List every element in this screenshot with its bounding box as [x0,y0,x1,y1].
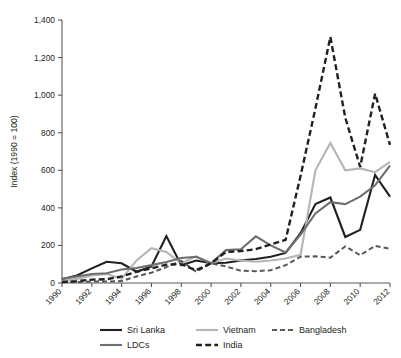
y-tick-label: 0 [50,278,55,288]
y-tick-label: 400 [41,203,55,213]
series-line-vietnam [62,143,390,281]
series-line-india [62,37,390,282]
legend-label-india: India [223,340,243,350]
y-tick-label: 600 [41,165,55,175]
x-tick-label: 1994 [103,286,123,306]
x-tick-label: 1998 [162,286,182,306]
x-tick-label: 2000 [192,286,212,306]
series-line-sri-lanka [62,175,390,279]
x-tick-label: 2002 [222,286,242,306]
y-tick-label: 800 [41,128,55,138]
x-tick-label: 2012 [371,286,391,306]
x-tick-label: 2008 [312,286,332,306]
x-tick-label: 2004 [252,286,272,306]
line-chart: 02004006008001,0001,2001,400199019921994… [0,0,401,358]
x-tick-label: 1990 [43,286,63,306]
legend-label-sri-lanka: Sri Lanka [127,325,165,335]
legend-label-ldcs: LDCs [127,340,150,350]
y-axis-title: Index (1990 = 100) [9,115,19,188]
y-tick-label: 1,200 [34,53,55,63]
y-tick-label: 1,400 [34,15,55,25]
y-tick-label: 200 [41,240,55,250]
x-tick-label: 2006 [282,286,302,306]
x-tick-label: 1992 [73,286,93,306]
chart-container: 02004006008001,0001,2001,400199019921994… [0,0,401,358]
y-tick-label: 1,000 [34,90,55,100]
legend-label-bangladesh: Bangladesh [299,325,347,335]
x-tick-label: 1996 [133,286,153,306]
legend-label-vietnam: Vietnam [223,325,256,335]
x-tick-label: 2010 [341,286,361,306]
